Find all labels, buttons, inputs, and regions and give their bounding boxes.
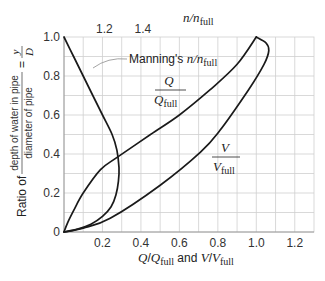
hydraulic-elements-chart: 0.20.40.60.81.01.2 00.20.40.60.81.0 1.21… (0, 0, 325, 281)
q-annotation: Q Qfull (154, 73, 186, 109)
y-tick-label: 0.8 (43, 69, 60, 83)
svg-text:Q: Q (164, 73, 174, 88)
y-tick-label: 0 (53, 225, 60, 239)
svg-text:V: V (221, 140, 231, 155)
y-tick-label: 0.4 (43, 147, 60, 161)
svg-text:=: = (15, 61, 29, 68)
y-tick-label: 0.2 (43, 186, 60, 200)
svg-text:diameter of pipe: diameter of pipe (23, 87, 34, 159)
v-annotation: V Vfull (212, 140, 240, 176)
x-tick-label: 0.4 (133, 236, 150, 250)
manning-annotation: Manning's n/nfull (129, 51, 217, 68)
svg-text:D: D (23, 48, 35, 57)
y-tick-labels: 00.20.40.60.81.0 (43, 30, 60, 239)
x-tick-label: 0.2 (94, 236, 111, 250)
top-tick-label: 1.4 (135, 22, 152, 36)
x-tick-label: 0.6 (171, 236, 188, 250)
x-tick-labels: 0.20.40.60.81.01.2 (94, 236, 303, 250)
svg-text:Qfull: Qfull (154, 92, 177, 109)
top-axis-title: n/nfull (183, 10, 214, 27)
svg-text:Ratio of: Ratio of (15, 175, 29, 217)
top-tick-label: 1.2 (96, 22, 113, 36)
x-tick-label: 1.0 (248, 236, 265, 250)
y-axis-title: Ratio of depth of water in pipe diameter… (9, 46, 35, 217)
x-tick-label: 1.2 (286, 236, 303, 250)
y-tick-label: 0.6 (43, 108, 60, 122)
svg-text:depth of water in pipe: depth of water in pipe (9, 75, 20, 171)
y-tick-label: 1.0 (43, 30, 60, 44)
svg-text:Vfull: Vfull (213, 159, 235, 176)
svg-text:y: y (9, 49, 21, 55)
x-tick-label: 0.8 (210, 236, 227, 250)
top-tick-labels: 1.21.4 (96, 22, 151, 36)
grid (64, 37, 314, 232)
x-axis-title: Q/Qfull and V/Vfull (138, 250, 234, 267)
